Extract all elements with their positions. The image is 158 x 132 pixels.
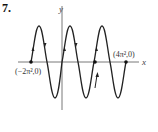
arrow-icon	[95, 47, 98, 51]
y-axis-label: y	[58, 4, 63, 14]
x-axis-label: x	[141, 57, 146, 67]
point-middle	[93, 60, 97, 64]
point-right	[124, 60, 128, 64]
left-point-label: (−2π²,0)	[15, 67, 42, 76]
arrow-icon	[63, 47, 66, 51]
right-point-label: (4π²,0)	[113, 50, 135, 59]
arrow-icon	[32, 47, 35, 51]
arrow-up-icon	[96, 72, 100, 77]
sine-graph: y x (−2π²,0) (4π²,0)	[0, 0, 158, 132]
point-left	[29, 60, 33, 64]
